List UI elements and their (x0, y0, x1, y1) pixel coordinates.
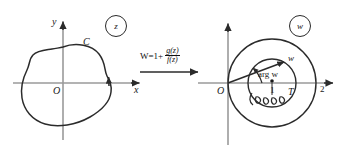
arg-w-label: arg w (258, 70, 278, 79)
transform-denominator: f(z) (165, 55, 180, 64)
z-origin-label: O (53, 86, 60, 96)
contour-c-path (21, 45, 111, 126)
transform-numerator: g(z) (164, 47, 180, 55)
point-one-label: 1 (270, 86, 275, 95)
z-plane-tag: z (105, 15, 127, 37)
transform-formula: W=1+ g(z) f(z) (140, 47, 181, 65)
w-curve-t-label: T (288, 87, 294, 97)
point-two-label: 2 (320, 85, 325, 94)
contour-c-label: C (83, 37, 90, 47)
z-axis-x-label: x (134, 85, 138, 95)
z-axis-y-label: y (52, 17, 56, 27)
w-plane-tag: w (289, 15, 311, 37)
transform-lhs: W=1+ (140, 51, 163, 61)
transform-fraction: g(z) f(z) (164, 47, 180, 65)
w-vector-label: w (288, 54, 294, 63)
w-origin-label: O (217, 86, 224, 96)
